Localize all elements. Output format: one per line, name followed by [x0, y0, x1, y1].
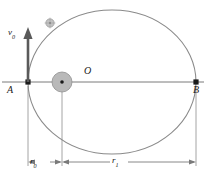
dimension-r1 [62, 160, 196, 165]
point-a-label: A [7, 85, 13, 95]
orbit-figure: v0 O A B r0 r1 [0, 0, 206, 180]
central-body [52, 72, 72, 92]
velocity-vector-arrow [23, 27, 32, 82]
radius-near-subscript: 0 [34, 163, 37, 169]
radius-far-symbol: r [112, 155, 116, 165]
central-body-center-dot [60, 80, 64, 84]
dimension-r1-arrowhead-left [62, 160, 69, 165]
dimension-r1-arrowhead-right [189, 160, 196, 165]
velocity-label-subscript: 0 [12, 34, 15, 40]
radius-far-label: r1 [112, 156, 119, 167]
radius-near-label: r0 [30, 157, 37, 168]
satellite-body [45, 18, 56, 29]
point-b-label: B [193, 85, 199, 95]
dimension-r0-arrowhead-right [55, 160, 62, 165]
center-label: O [84, 66, 91, 76]
velocity-arrow-head [23, 27, 32, 39]
radius-near-symbol: r [30, 156, 34, 166]
velocity-label: v0 [8, 28, 15, 39]
orbit-diagram-svg [0, 0, 206, 180]
radius-far-subscript: 1 [116, 162, 119, 168]
